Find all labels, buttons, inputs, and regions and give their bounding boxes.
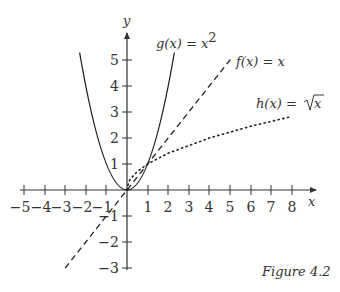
x-axis-label: x xyxy=(308,194,316,209)
svg-text:x: x xyxy=(314,96,322,111)
svg-text:2: 2 xyxy=(110,130,119,146)
svg-text:−2: −2 xyxy=(98,234,119,250)
svg-text:5: 5 xyxy=(110,52,119,68)
svg-text:6: 6 xyxy=(247,199,256,215)
label-h: h(x) = x xyxy=(256,95,324,111)
figure-caption: Figure 4.2 xyxy=(261,264,331,279)
svg-text:4: 4 xyxy=(110,78,119,94)
svg-text:−2: −2 xyxy=(72,199,93,215)
svg-text:−4: −4 xyxy=(31,199,52,215)
svg-text:1: 1 xyxy=(110,156,119,172)
svg-text:−3: −3 xyxy=(98,260,119,276)
svg-text:8: 8 xyxy=(288,199,297,215)
svg-text:−1: −1 xyxy=(98,208,119,224)
chart-figure: −5 −4 −3 −2 −1 1 2 3 4 5 6 7 8 5 4 3 2 1… xyxy=(0,0,340,292)
label-g: g(x) = x2 xyxy=(156,30,217,51)
y-tick-labels: 5 4 3 2 1 −1 −2 −3 xyxy=(98,52,119,276)
svg-text:1: 1 xyxy=(144,199,153,215)
y-axis-label: y xyxy=(122,13,131,28)
svg-text:3: 3 xyxy=(110,104,119,120)
svg-text:−5: −5 xyxy=(10,199,31,215)
svg-text:4: 4 xyxy=(205,199,214,215)
svg-text:h(x) =: h(x) = xyxy=(256,96,297,111)
svg-text:3: 3 xyxy=(185,199,194,215)
x-tick-labels: −5 −4 −3 −2 −1 1 2 3 4 5 6 7 8 xyxy=(10,199,297,215)
svg-text:5: 5 xyxy=(226,199,235,215)
svg-text:−3: −3 xyxy=(51,199,72,215)
svg-text:2: 2 xyxy=(164,199,173,215)
svg-text:7: 7 xyxy=(267,199,276,215)
series-f-identity xyxy=(65,57,232,268)
label-f: f(x) = x xyxy=(235,54,285,69)
